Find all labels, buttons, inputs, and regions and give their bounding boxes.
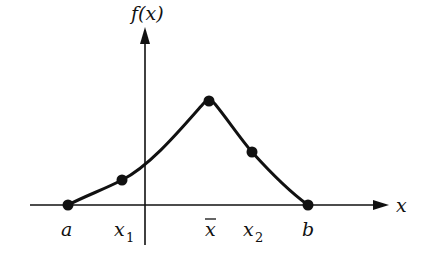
point-xbar bbox=[204, 96, 215, 107]
label-b: b bbox=[302, 218, 314, 240]
label-x2-subscript: 2 bbox=[255, 230, 263, 245]
label-xbar: x bbox=[205, 218, 216, 240]
label-x2: x bbox=[243, 218, 254, 240]
diagram-canvas: f(x) x a x 1 x x 2 b bbox=[0, 0, 441, 268]
x-axis-arrow-icon bbox=[373, 200, 389, 210]
x-axis-label: x bbox=[396, 194, 407, 216]
point-a bbox=[63, 200, 74, 211]
function-curve bbox=[68, 101, 308, 206]
y-axis-label: f(x) bbox=[129, 2, 164, 24]
point-x1 bbox=[117, 175, 128, 186]
y-axis bbox=[140, 27, 150, 245]
point-x2 bbox=[247, 147, 258, 158]
x-axis bbox=[30, 200, 389, 210]
label-x1-subscript: 1 bbox=[126, 230, 134, 245]
point-b bbox=[303, 200, 314, 211]
function-diagram: f(x) x a x 1 x x 2 b bbox=[0, 0, 441, 268]
y-axis-arrow-icon bbox=[140, 27, 150, 44]
label-x1: x bbox=[114, 218, 125, 240]
label-a: a bbox=[61, 218, 72, 240]
